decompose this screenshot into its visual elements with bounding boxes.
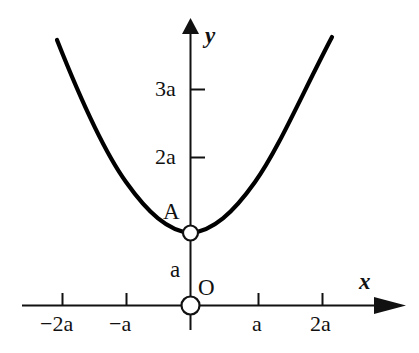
y-tick-label-2a: 2a bbox=[155, 146, 176, 168]
x-tick-label--a: −a bbox=[109, 313, 131, 335]
x-axis-arrowhead bbox=[374, 297, 406, 314]
x-tick-label--2a: −2a bbox=[40, 313, 73, 335]
y-axis-arrowhead bbox=[182, 18, 199, 34]
segment-a-label: a bbox=[170, 258, 180, 281]
origin-marker bbox=[182, 297, 200, 315]
plot-canvas bbox=[0, 0, 419, 353]
origin-label: O bbox=[198, 276, 215, 299]
point-a-marker bbox=[183, 226, 198, 241]
y-axis-label: y bbox=[205, 24, 215, 47]
parabola-curve bbox=[57, 37, 332, 233]
x-tick-label-2a: 2a bbox=[310, 313, 331, 335]
y-tick-label-3a: 3a bbox=[155, 78, 176, 100]
x-tick-label-a: a bbox=[252, 313, 262, 335]
x-axis-label: x bbox=[359, 270, 371, 293]
parabola-figure: y x 3a 2a −2a −a a 2a A a O bbox=[0, 0, 419, 353]
point-a-label: A bbox=[163, 200, 180, 223]
